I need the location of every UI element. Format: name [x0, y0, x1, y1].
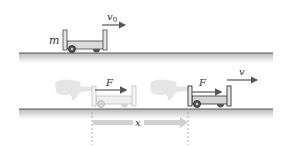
top-scene: m v0 — [19, 11, 273, 63]
bottom-scene: F F v x — [19, 66, 273, 145]
top-cart — [63, 30, 107, 53]
top-floor-shade — [19, 53, 273, 63]
bottom-floor-shade — [19, 109, 273, 119]
cart-final-position — [188, 86, 231, 108]
force-label-final: F — [198, 77, 207, 88]
hand-icon-initial — [55, 79, 92, 100]
displacement-label: x — [135, 117, 141, 128]
hand-icon-final — [150, 79, 188, 100]
final-velocity-label: v — [239, 66, 245, 77]
work-energy-diagram: m v0 F — [0, 0, 288, 147]
initial-velocity-label: v0 — [107, 11, 117, 24]
mass-label: m — [49, 34, 59, 47]
force-label-initial: F — [105, 77, 114, 88]
cart-initial-position — [92, 86, 136, 108]
